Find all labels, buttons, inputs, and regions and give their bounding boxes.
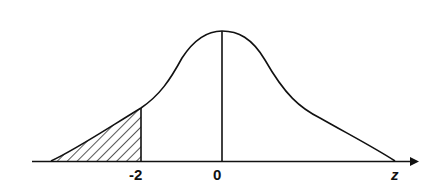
axis-arrowhead-icon: [410, 157, 419, 166]
tick-label-zero: 0: [213, 167, 221, 182]
tick-label-neg-two: -2: [129, 167, 142, 182]
axis-label-z: z: [391, 167, 399, 182]
curve-graphic: [0, 0, 446, 186]
normal-curve-diagram: -2 0 z: [0, 0, 446, 186]
